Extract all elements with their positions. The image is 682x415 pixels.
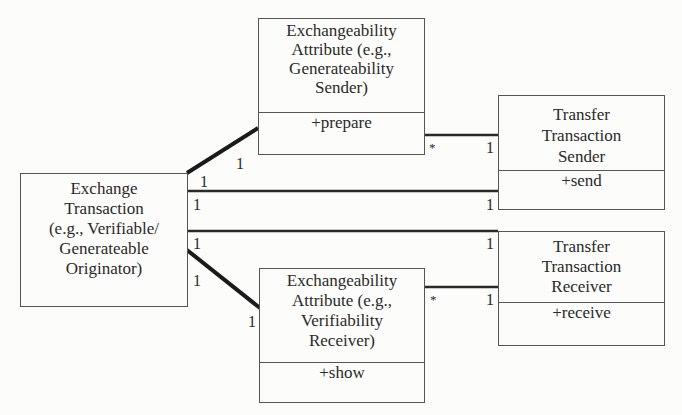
- operation-prepare: +prepare: [259, 113, 424, 133]
- class-name: Exchangeability Attribute (e.g., Generat…: [259, 19, 424, 97]
- class-name: Exchange Transaction (e.g., Verifiable/ …: [21, 174, 187, 279]
- class-transfer-transaction-sender[interactable]: Transfer Transaction Sender +send: [498, 95, 665, 210]
- class-exchangeability-attribute-sender[interactable]: Exchangeability Attribute (e.g., Generat…: [258, 18, 425, 155]
- class-operations: +show: [260, 362, 424, 402]
- class-name: Exchangeability Attribute (e.g., Verifia…: [260, 269, 424, 351]
- class-exchange-transaction[interactable]: Exchange Transaction (e.g., Verifiable/ …: [20, 173, 188, 307]
- assoc-exchange-to-attr-sender: [187, 128, 258, 173]
- class-operations: +prepare: [259, 112, 424, 154]
- class-transfer-transaction-receiver[interactable]: Transfer Transaction Receiver +receive: [498, 231, 665, 346]
- class-name: Transfer Transaction Sender: [499, 96, 664, 167]
- mult-exchange-tt-receiver-to: 1: [486, 236, 494, 252]
- mult-exchange-attr-sender-to: 1: [236, 156, 244, 172]
- mult-attr-receiver-tt-receiver-from: *: [430, 292, 437, 308]
- operation-send: +send: [499, 171, 664, 191]
- mult-exchange-tt-receiver-from: 1: [193, 236, 201, 252]
- mult-exchange-attr-receiver-from: 1: [193, 273, 201, 289]
- class-name: Transfer Transaction Receiver: [499, 232, 664, 297]
- mult-exchange-attr-receiver-to: 1: [248, 314, 256, 330]
- class-operations: +send: [499, 170, 664, 209]
- mult-attr-receiver-tt-receiver-to: 1: [486, 292, 494, 308]
- mult-exchange-tt-sender-from: 1: [193, 197, 201, 213]
- mult-exchange-tt-sender-to: 1: [486, 197, 494, 213]
- mult-attr-sender-tt-sender-from: *: [429, 140, 436, 156]
- mult-attr-sender-tt-sender-to: 1: [486, 140, 494, 156]
- operation-receive: +receive: [499, 303, 664, 323]
- class-exchangeability-attribute-receiver[interactable]: Exchangeability Attribute (e.g., Verifia…: [259, 268, 425, 403]
- mult-exchange-attr-sender-from: 1: [200, 174, 208, 190]
- operation-show: +show: [260, 363, 424, 383]
- class-operations: +receive: [499, 302, 664, 345]
